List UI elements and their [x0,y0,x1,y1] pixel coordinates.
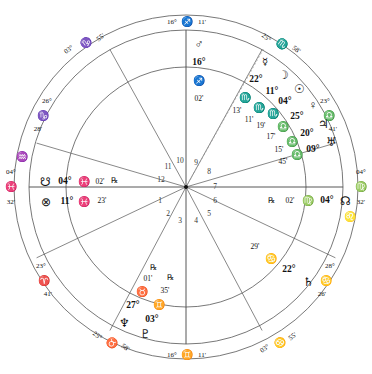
mars-minute: 02' [195,95,204,103]
pluto-sign-icon: ♊ [153,300,165,310]
neptune-degree: 27° [126,301,139,311]
south-node-retrograde-icon: ℞ [111,177,118,185]
midheaven-minute: 11' [198,19,206,26]
descendant-degree: 04° [356,169,366,176]
sun-sign-icon: ♏ [267,109,279,119]
midheaven-sign-icon: ♐ [181,17,193,27]
house-number-4: 4 [194,217,198,225]
cusp-2-degree: 23° [36,263,46,270]
house-number-3: 3 [178,217,182,225]
house-number-7: 7 [213,183,217,191]
uranus-icon: ♅ [326,136,337,148]
south-node-sign-icon: ♓ [78,177,90,187]
north-node-sign-icon: ♍ [302,196,314,206]
mars-sign-icon: ♐ [193,76,205,86]
saturn-degree: 22° [282,265,295,275]
chart-center-point [184,185,188,189]
cusp-line-2 [37,187,186,258]
cusp-12-minute: 28' [34,126,42,133]
cusp-12-sign-icon: ♑ [37,111,49,121]
mercury-sign-icon: ♏ [239,93,251,103]
cusp-8-minute: 41' [329,126,337,133]
mercury-minute: 13' [233,107,242,115]
cusp-line-11 [110,50,186,188]
descendant-sign-icon: ♍ [355,182,367,192]
mars-icon: ♂ [195,38,204,50]
ascendant-minute: 32' [7,199,15,206]
part-of-fortune-degree: 11° [61,197,74,207]
neptune-minute: 01' [144,275,153,283]
house-number-8: 8 [207,168,211,176]
cusp-2-minute: 41' [44,291,52,298]
venus-minute: 17' [267,133,276,141]
uranus-degree: 09° [306,145,319,155]
south-node-minute: 02' [96,178,105,186]
part-of-fortune-minute: 23' [98,197,107,205]
cusp-6-minute: 26' [318,291,326,298]
moon-minute: 11' [245,116,254,124]
pluto-minute: 35' [161,287,170,295]
cusp-12-degree: 26° [42,98,52,105]
astrology-chart-wheel: 16° ♐ 11' 16° ♊ 11' 04° ♓ 32' 04° ♍ 32' … [0,0,372,374]
house-number-10: 10 [176,157,184,165]
saturn-minute: 29' [251,243,260,251]
imum-coeli-sign-icon: ♊ [181,350,193,360]
cusp-2-sign-icon: ♈ [38,276,50,286]
cusp-8-degree: 23° [320,98,330,105]
north-node-icon: ☊ [340,195,351,207]
mars-degree: 16° [192,58,205,68]
chart-wheel-graphics [0,0,372,374]
part-of-fortune-sign-icon: ♓ [78,197,90,207]
ascendant-sign-icon: ♓ [5,182,17,192]
south-node-icon: ☋ [40,176,51,188]
imum-coeli-degree: 16° [167,352,177,359]
pluto-degree: 03° [145,315,158,325]
moon-sign-icon: ♏ [253,103,265,113]
ring-sign-aquarius-icon: ♒ [16,152,28,162]
mercury-icon: ☿ [262,57,268,67]
house-number-11: 11 [164,163,171,171]
uranus-sign-icon: ♎ [291,150,303,160]
jupiter-degree: 20° [300,129,313,139]
jupiter-minute: 15' [275,146,284,154]
cusp-6-degree: 28° [325,263,335,270]
north-node-minute: 02' [286,197,295,205]
imum-coeli-minute: 11' [198,352,206,359]
south-node-degree: 04° [58,177,71,187]
midheaven-degree: 16° [167,19,177,26]
sun-minute: 19' [257,122,266,130]
part-of-fortune-icon: ⊗ [41,196,51,208]
pluto-icon: ♇ [140,328,151,340]
uranus-minute: 45' [279,158,288,166]
house-number-2: 2 [166,210,170,218]
north-node-retrograde-icon: ℞ [268,197,275,205]
mercury-degree: 22° [249,75,262,85]
sun-icon: ☉ [294,83,305,95]
saturn-icon: ♄ [303,276,314,288]
jupiter-sign-icon: ♎ [286,137,298,147]
house-number-5: 5 [207,210,211,218]
saturn-sign-icon: ♋ [265,254,277,264]
house-number-12: 12 [157,176,165,184]
neptune-retrograde-icon: ℞ [150,264,157,272]
moon-degree: 11° [266,87,279,97]
neptune-sign-icon: ♉ [136,287,148,297]
house-number-9: 9 [194,159,198,167]
venus-sign-icon: ♎ [277,122,289,132]
jupiter-icon: ♃ [318,118,329,130]
house-number-1: 1 [158,197,162,205]
cusp-line-3 [110,187,186,331]
cusp-6-sign-icon: ♋ [320,276,332,286]
sun-degree: 04° [278,97,291,107]
venus-icon: ♀ [309,99,318,111]
cusp-line-5 [186,187,262,331]
descendant-minute: 32' [357,199,365,206]
venus-degree: 25° [290,112,303,122]
pluto-retrograde-icon: ℞ [167,274,174,282]
house-number-6: 6 [213,197,217,205]
ring-sign-leo-icon: ♌ [344,212,356,222]
neptune-icon: ♆ [119,317,130,329]
moon-icon: ☽ [278,69,289,81]
ascendant-degree: 04° [6,169,16,176]
north-node-degree: 04° [320,196,333,206]
